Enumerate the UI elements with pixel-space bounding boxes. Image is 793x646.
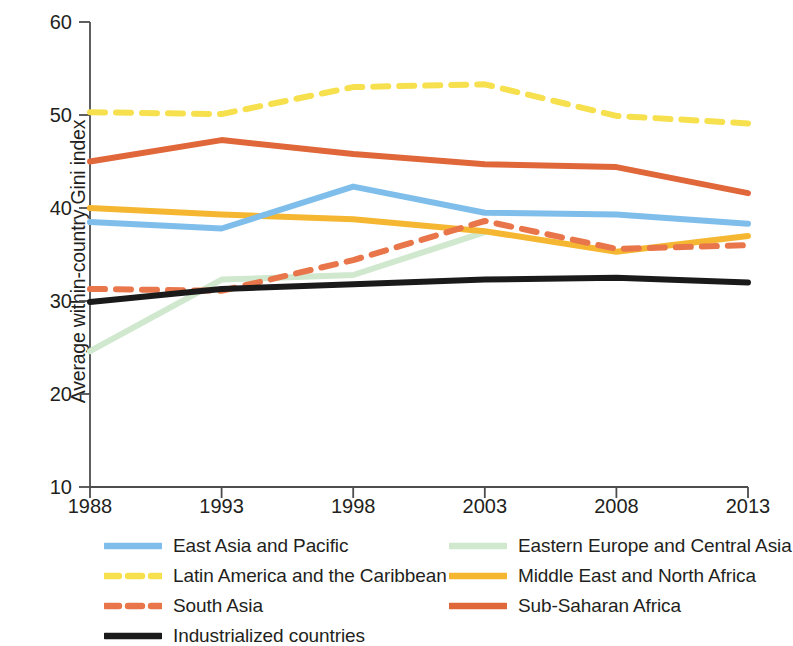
plot-svg	[90, 22, 748, 487]
chart-legend: East Asia and PacificEastern Europe and …	[104, 530, 776, 630]
y-tick-label: 10	[26, 477, 72, 497]
legend-label: Sub-Saharan Africa	[518, 595, 681, 617]
axis-lines	[79, 22, 748, 498]
y-tick-label: 30	[26, 291, 72, 311]
x-axis-tick-labels: 198819931998200320082013	[0, 496, 776, 526]
legend-swatch-icon	[449, 594, 507, 618]
legend-item: Sub-Saharan Africa	[449, 594, 681, 618]
legend-label: Eastern Europe and Central Asia	[518, 535, 792, 557]
x-tick-label: 2003	[440, 496, 530, 516]
y-tick-label: 60	[26, 12, 72, 32]
legend-item: Industrialized countries	[104, 624, 365, 646]
series-line	[90, 84, 748, 123]
legend-item: Latin America and the Caribbean	[104, 564, 447, 588]
x-tick-label: 2013	[703, 496, 793, 516]
legend-item: Eastern Europe and Central Asia	[449, 534, 792, 558]
legend-swatch-icon	[449, 564, 507, 588]
legend-label: Latin America and the Caribbean	[173, 565, 447, 587]
y-tick-label: 20	[26, 384, 72, 404]
x-tick-label: 1993	[177, 496, 267, 516]
series-line	[90, 140, 748, 193]
x-tick-label: 1998	[308, 496, 398, 516]
legend-item: East Asia and Pacific	[104, 534, 348, 558]
y-tick-label: 40	[26, 198, 72, 218]
y-tick-label: 50	[26, 105, 72, 125]
x-tick-label: 2008	[571, 496, 661, 516]
legend-label: Middle East and North Africa	[518, 565, 756, 587]
legend-swatch-icon	[104, 564, 162, 588]
legend-item: Middle East and North Africa	[449, 564, 756, 588]
legend-swatch-icon	[104, 624, 162, 646]
legend-label: Industrialized countries	[173, 625, 365, 646]
legend-label: South Asia	[173, 595, 263, 617]
legend-item: South Asia	[104, 594, 263, 618]
legend-swatch-icon	[104, 594, 162, 618]
x-tick-label: 1988	[45, 496, 135, 516]
legend-label: East Asia and Pacific	[173, 535, 348, 557]
legend-swatch-icon	[449, 534, 507, 558]
legend-swatch-icon	[104, 534, 162, 558]
plot-area	[90, 22, 748, 487]
y-axis-tick-labels: 605040302010	[0, 0, 72, 631]
